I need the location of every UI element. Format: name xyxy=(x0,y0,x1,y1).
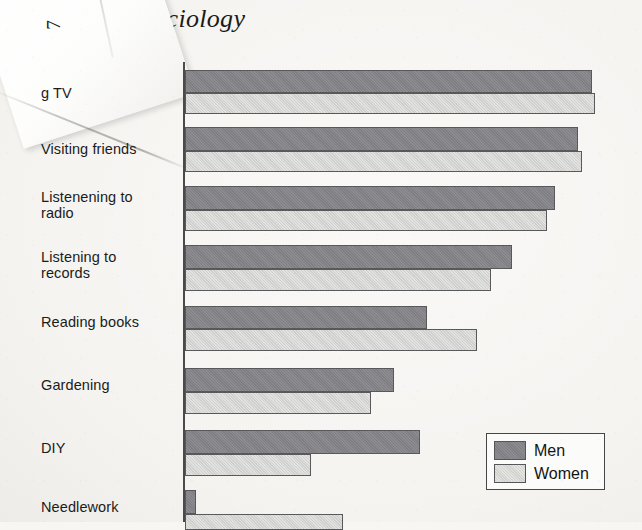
bar-men-reading-books xyxy=(185,306,427,329)
category-label-listening-radio: Listenening to radio xyxy=(41,190,181,221)
legend-item-men: Men xyxy=(494,439,604,462)
category-label-reading-books: Reading books xyxy=(41,315,181,331)
bar-men-gardening xyxy=(185,368,394,392)
category-label-gardening: Gardening xyxy=(41,378,181,394)
bar-women-gardening xyxy=(185,392,371,414)
bar-women-watching-tv xyxy=(185,93,595,114)
category-label-watching-tv: g TV xyxy=(41,86,181,102)
bar-women-listening-radio xyxy=(185,210,547,231)
bar-men-listening-radio xyxy=(185,186,555,210)
bar-women-visiting-friends xyxy=(185,151,582,172)
legend-label-women: Women xyxy=(534,465,589,483)
category-label-listening-records: Listening to records xyxy=(41,250,181,281)
category-label-diy: DIY xyxy=(41,441,181,457)
bar-men-watching-tv xyxy=(185,70,592,93)
bar-men-diy xyxy=(185,430,420,454)
legend-label-men: Men xyxy=(534,442,565,460)
men-swatch-icon xyxy=(494,441,526,460)
bar-women-diy xyxy=(185,454,311,476)
bar-men-listening-records xyxy=(185,245,512,269)
page-number: 7 xyxy=(43,20,65,30)
chart-legend: Men Women xyxy=(486,433,605,490)
category-label-visiting-friends: Visiting friends xyxy=(41,142,181,158)
fold-crease-vertical xyxy=(87,0,114,58)
bar-men-visiting-friends xyxy=(185,127,578,151)
bar-women-listening-records xyxy=(185,269,491,291)
category-label-needlework: Needlework xyxy=(41,500,181,516)
bar-women-needlework xyxy=(185,514,343,530)
legend-item-women: Women xyxy=(494,462,604,485)
bar-men-needlework xyxy=(185,490,196,514)
women-swatch-icon xyxy=(494,464,526,483)
grouped-bar-chart: g TV Visiting friends Listenening to rad… xyxy=(0,58,642,522)
bar-women-reading-books xyxy=(185,329,477,351)
